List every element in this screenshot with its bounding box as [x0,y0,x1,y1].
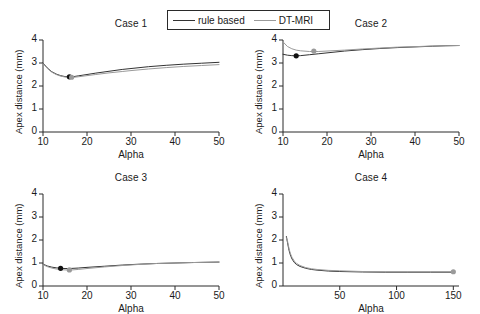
x-tick-label: 30 [111,290,151,301]
series-line-rule-based [43,62,219,76]
series-line-dt-mri [43,262,219,270]
legend-line-swatch [254,20,276,21]
series-line-dt-mri [43,63,219,77]
legend-entry-2: DT-MRI [254,15,313,26]
plot-area-1 [0,0,480,314]
optimum-marker-rule-based [67,74,72,79]
y-tick-label: 0 [13,125,37,136]
series-line-rule-based [286,237,453,273]
y-axis-label-4: Apex distance (mm) [253,204,264,288]
legend-entry-1: rule based [173,15,245,26]
y-tick-label: 2 [13,79,37,90]
figure-canvas: Case 1Apex distance (mm)Alpha01234102030… [0,0,480,314]
optimum-marker-dt-mri [69,75,74,80]
x-axis-label-2: Alpha [321,149,421,160]
y-tick-label: 4 [13,33,37,44]
optimum-marker-rule-based [58,266,63,271]
y-tick-label: 4 [13,187,37,198]
x-axis-label-4: Alpha [321,303,421,314]
series-line-rule-based [43,262,219,268]
x-tick-label: 30 [111,136,151,147]
x-axis-label-3: Alpha [81,303,181,314]
plot-area-2 [0,0,480,314]
x-tick-label: 10 [23,290,63,301]
y-axis-label-2: Apex distance (mm) [253,50,264,134]
y-tick-label: 0 [13,279,37,290]
x-tick-label: 40 [395,136,435,147]
subplot-panel-1: Case 1Apex distance (mm)Alpha01234102030… [0,0,480,314]
y-tick-label: 3 [13,56,37,67]
x-tick-label: 150 [433,290,473,301]
x-tick-label: 10 [263,136,303,147]
legend: rule basedDT-MRI [167,10,330,30]
y-tick-label: 1 [253,102,277,113]
y-tick-label: 1 [13,102,37,113]
optimum-marker-dt-mri [311,48,316,53]
y-axis-label-1: Apex distance (mm) [13,50,24,134]
optimum-marker-rule-based [294,53,299,58]
legend-label: DT-MRI [279,15,313,26]
x-tick-label: 20 [307,136,347,147]
plot-area-4 [0,0,480,314]
y-tick-label: 3 [253,56,277,67]
y-tick-label: 3 [13,210,37,221]
subplot-panel-4: Case 4Apex distance (mm)Alpha01234501001… [0,0,480,314]
series-line-rule-based [283,46,459,56]
subplot-panel-3: Case 3Apex distance (mm)Alpha01234102030… [0,0,480,314]
x-axis-label-1: Alpha [81,149,181,160]
subplot-title-3: Case 3 [71,172,191,183]
y-tick-label: 4 [253,187,277,198]
x-tick-label: 40 [155,136,195,147]
y-tick-label: 2 [253,233,277,244]
legend-label: rule based [198,15,245,26]
y-tick-label: 0 [253,279,277,290]
optimum-marker-dt-mri [451,269,456,274]
series-line-dt-mri [283,42,459,52]
x-tick-label: 50 [199,290,239,301]
x-tick-label: 50 [320,290,360,301]
y-tick-label: 0 [253,125,277,136]
x-tick-label: 50 [439,136,479,147]
series-line-dt-mri [286,238,453,272]
y-tick-label: 4 [253,33,277,44]
y-axis-label-3: Apex distance (mm) [13,204,24,288]
subplot-title-4: Case 4 [311,172,431,183]
legend-line-swatch [173,20,195,21]
y-tick-label: 2 [253,79,277,90]
x-tick-label: 20 [67,290,107,301]
y-tick-label: 3 [253,210,277,221]
y-tick-label: 1 [13,256,37,267]
y-tick-label: 2 [13,233,37,244]
x-tick-label: 10 [23,136,63,147]
plot-area-3 [0,0,480,314]
y-tick-label: 1 [253,256,277,267]
x-tick-label: 30 [351,136,391,147]
subplot-panel-2: Case 2Apex distance (mm)Alpha01234102030… [0,0,480,314]
optimum-marker-dt-mri [67,267,72,272]
x-tick-label: 50 [199,136,239,147]
x-tick-label: 40 [155,290,195,301]
x-tick-label: 20 [67,136,107,147]
x-tick-label: 100 [377,290,417,301]
